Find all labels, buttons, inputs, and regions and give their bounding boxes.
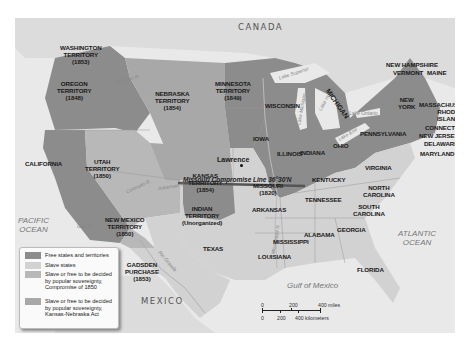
legend-swatch-free <box>25 252 41 259</box>
region-label-florida: FLORIDA <box>357 266 384 273</box>
region-label-tennessee: TENNESSEE <box>305 196 342 203</box>
region-label-pennsylvania: PENNSYLVANIA <box>360 130 406 137</box>
region-label-california: CALIFORNIA <box>25 160 62 167</box>
region-label-delaware: DELAWARE <box>424 140 455 147</box>
legend-label: Free states and territories <box>45 252 109 259</box>
legend-item-compromise-1850: Slave or free to be decided by popular s… <box>25 271 112 291</box>
region-label-virginia: VIRGINIA <box>365 164 392 171</box>
region-label-new-hampshire: NEW HAMPSHIRE <box>386 61 438 68</box>
region-label-south-carolina: SOUTH CAROLINA <box>353 203 385 217</box>
scale-tick <box>262 308 263 313</box>
region-label-oregon: OREGON TERRITORY (1848) <box>57 80 92 102</box>
river-label-gila: Gila R. <box>77 223 92 229</box>
legend-item-kansas-nebraska: Slave or free to be decided by popular s… <box>25 298 112 318</box>
region-label-illinois: ILLINOIS <box>277 150 302 157</box>
region-label-maryland: MARYLAND <box>420 150 454 157</box>
region-label-arkansas: ARKANSAS <box>252 206 286 213</box>
legend-label: Slave states <box>45 262 75 269</box>
legend-swatch-kansas-nebraska <box>25 298 41 305</box>
scale-km-0: 0 <box>261 315 264 321</box>
legend-swatch-compromise-1850 <box>25 271 41 278</box>
water-label-lake-ontario: Lake Ontario <box>349 110 378 116</box>
region-label-nebraska: NEBRASKA TERRITORY (1854) <box>155 90 190 112</box>
region-label-new-jersey: NEW JERSEY <box>419 132 455 139</box>
region-label-north-carolina: NORTH CAROLINA <box>363 184 395 198</box>
country-label-canada: CANADA <box>238 22 283 32</box>
city-dot-lawrence <box>240 164 243 167</box>
water-label-pacific: PACIFIC OCEAN <box>18 216 49 234</box>
scale-tick <box>280 310 281 313</box>
region-label-utah: UTAH TERRITORY (1850) <box>85 158 120 180</box>
region-label-alabama: ALABAMA <box>304 231 335 238</box>
region-label-mississippi: MISSISSIPPI <box>273 238 309 245</box>
region-label-rhode-island: RHODE ISLAND <box>437 108 455 122</box>
missouri-compromise-label: Missouri Compromise Line 36°30'N <box>183 176 292 183</box>
scale-tick <box>320 308 321 313</box>
region-label-indiana: INDIANA <box>300 149 325 156</box>
region-label-iowa: IOWA <box>253 135 269 142</box>
region-label-new-mexico: NEW MEXICO TERRITORY (1850) <box>105 216 145 238</box>
region-label-georgia: GEORGIA <box>337 226 366 233</box>
legend-item-free: Free states and territories <box>25 252 109 259</box>
water-label-atlantic: ATLANTIC OCEAN <box>398 229 436 247</box>
region-label-louisiana: LOUISIANA <box>258 253 291 260</box>
region-label-kentucky: KENTUCKY <box>312 176 346 183</box>
scale-bar: 0 200 400 miles 0 200 400 kilometers <box>262 300 342 326</box>
region-label-washington: WASHINGTON TERRITORY (1853) <box>60 44 102 66</box>
region-label-missouri: MISSOURI (1820) <box>253 182 283 196</box>
region-label-connecticut: CONNECTICUT <box>425 124 455 131</box>
scale-km-400: 400 kilometers <box>295 315 329 321</box>
legend-label: Slave or free to be decided by popular s… <box>45 271 112 291</box>
legend-label: Slave or free to be decided by popular s… <box>45 298 112 318</box>
scale-miles-400: 400 miles <box>318 302 340 308</box>
water-label-gulf: Gulf of Mexico <box>287 281 338 290</box>
city-label-lawrence: Lawrence <box>217 156 249 163</box>
scale-km-200: 200 <box>277 315 286 321</box>
map-legend: Free states and territories Slave states… <box>19 247 119 329</box>
region-label-minnesota: MINNESOTA TERRITORY (1849) <box>215 80 251 102</box>
region-label-wisconsin: WISCONSIN <box>265 102 300 109</box>
legend-item-slave: Slave states <box>25 262 75 269</box>
scale-tick <box>291 308 292 311</box>
region-label-indian: INDIAN TERRITORY (Unorganized) <box>182 205 222 227</box>
region-label-texas: TEXAS <box>203 245 223 252</box>
region-label-new-york: NEW YORK <box>398 96 415 110</box>
region-label-maine: MAINE <box>427 69 446 76</box>
legend-swatch-slave <box>25 262 41 269</box>
region-label-gadsden: GADSDEN PURCHASE (1853) <box>125 261 159 283</box>
region-label-vermont: VERMONT <box>393 69 423 76</box>
region-label-ohio: OHIO <box>333 142 348 149</box>
scale-tick <box>298 310 299 313</box>
country-label-mexico: MEXICO <box>141 296 184 306</box>
